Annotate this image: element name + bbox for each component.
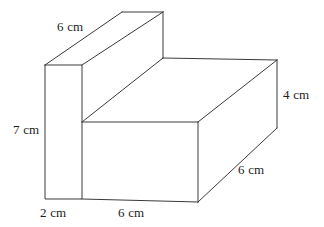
lower-block-top-right-edge (198, 60, 277, 122)
solid-figure-diagram: 6 cm 7 cm 4 cm 6 cm 2 cm 6 cm (0, 0, 324, 227)
left-end-face-outline (45, 65, 82, 199)
label-left-height: 7 cm (13, 123, 39, 136)
lower-block-front-bottom-edge (82, 199, 198, 202)
step-riser-edge (82, 58, 163, 122)
label-top-back-length: 6 cm (57, 20, 83, 33)
lower-block-top-back-edge (163, 58, 277, 60)
label-bottom-front-width: 6 cm (118, 206, 144, 219)
slab-top-front-edge (82, 12, 163, 65)
solid-figure-svg (0, 0, 324, 227)
label-right-depth: 6 cm (238, 163, 264, 176)
label-bottom-left-width: 2 cm (40, 206, 66, 219)
label-right-height: 4 cm (283, 88, 309, 101)
